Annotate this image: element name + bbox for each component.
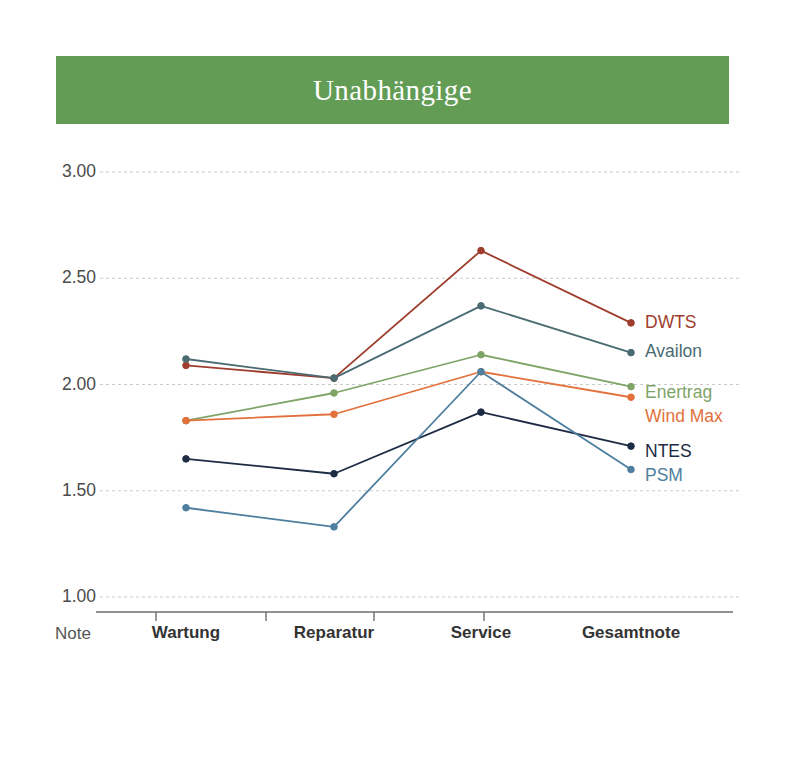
data-point-marker (478, 303, 485, 310)
line-chart: 3.002.502.001.501.00 WartungReparaturSer… (0, 0, 785, 760)
data-point-marker (478, 368, 485, 375)
data-point-marker (628, 349, 635, 356)
y-axis-tick-label: 2.50 (42, 269, 96, 287)
x-axis-tick-label: Reparatur (254, 624, 414, 641)
x-axis-tick-label: Wartung (106, 624, 266, 641)
series-line (186, 372, 631, 527)
data-point-marker (331, 375, 338, 382)
axis-corner-label: Note (55, 625, 91, 642)
data-point-marker (331, 411, 338, 418)
data-point-marker (478, 247, 485, 254)
data-point-marker (183, 456, 190, 463)
data-point-marker (183, 362, 190, 369)
legend-item-psm: PSM (645, 467, 683, 485)
data-point-marker (331, 470, 338, 477)
data-point-marker (331, 524, 338, 531)
data-point-marker (183, 504, 190, 511)
y-axis-tick-label: 1.00 (42, 588, 96, 606)
legend-item-ntes: NTES (645, 443, 692, 461)
chart-page: Unabhängige 3.002.502.001.501.00 Wartung… (0, 0, 785, 760)
data-point-marker (478, 409, 485, 416)
data-point-marker (628, 394, 635, 401)
data-point-marker (183, 356, 190, 363)
x-axis-tick-label: Service (401, 624, 561, 641)
data-point-marker (628, 443, 635, 450)
data-point-marker (628, 320, 635, 327)
series-line (186, 306, 631, 378)
x-axis-tick-label: Gesamtnote (551, 624, 711, 641)
series-line (186, 251, 631, 379)
data-point-marker (478, 351, 485, 358)
data-point-marker (331, 390, 338, 397)
y-axis-tick-label: 3.00 (42, 163, 96, 181)
chart-canvas (0, 0, 785, 760)
data-point-marker (628, 466, 635, 473)
legend-item-enertrag: Enertrag (645, 384, 712, 402)
data-point-marker (628, 383, 635, 390)
series-line (186, 372, 631, 421)
series-line (186, 355, 631, 421)
data-point-marker (183, 417, 190, 424)
y-axis-tick-label: 2.00 (42, 376, 96, 394)
y-axis-tick-label: 1.50 (42, 482, 96, 500)
legend-item-wind-max: Wind Max (645, 408, 723, 426)
legend-item-dwts: DWTS (645, 314, 697, 332)
series-line (186, 412, 631, 474)
legend-item-availon: Availon (645, 343, 702, 361)
